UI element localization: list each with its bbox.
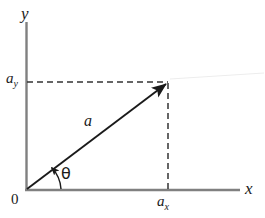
vector-magnitude-label: a	[84, 113, 92, 129]
y-component-base: a	[6, 70, 14, 86]
x-axis-label: x	[245, 180, 253, 197]
angle-theta-arc	[52, 168, 62, 190]
x-component-base: a	[157, 193, 165, 209]
vector-components-figure: y x 0 a θ ay ax	[0, 0, 265, 218]
y-axis-label: y	[21, 5, 29, 22]
origin-label: 0	[11, 192, 19, 207]
y-component-subscript: y	[14, 78, 18, 89]
figure-canvas	[0, 0, 265, 218]
vector-a-arrow	[27, 84, 166, 189]
y-component-label: ay	[6, 71, 18, 86]
x-component-label: ax	[157, 194, 169, 209]
angle-theta-label: θ	[61, 166, 71, 182]
scan-artifact-hairline	[170, 73, 264, 79]
x-component-subscript: x	[165, 201, 169, 212]
